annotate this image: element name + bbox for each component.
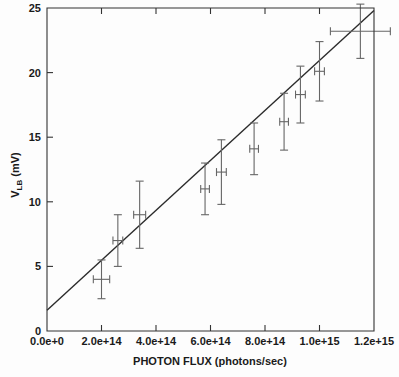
linear-fit-line	[47, 11, 374, 311]
data-point-errorbar	[134, 181, 146, 248]
y-tick-label: 5	[35, 260, 41, 272]
y-tick-label: 0	[35, 325, 41, 337]
photon-flux-voltage-scatter-plot: 0.0e+02.0e+144.0e+146.0e+148.0e+141.0e+1…	[0, 0, 399, 377]
y-tick-label: 20	[29, 67, 41, 79]
data-point-errorbar	[216, 140, 226, 205]
chart-figure: 0.0e+02.0e+144.0e+146.0e+148.0e+141.0e+1…	[0, 0, 399, 377]
x-tick-label: 1.2e+15	[354, 335, 394, 347]
fit-line-segment	[47, 11, 374, 311]
y-axis-tick-labels: 0510152025	[29, 2, 41, 337]
y-axis-title: VLB (mV)	[9, 152, 24, 198]
y-tick-label: 10	[29, 196, 41, 208]
x-tick-label: 4.0e+14	[136, 335, 177, 347]
x-tick-label: 8.0e+14	[245, 335, 286, 347]
y-axis-title-subscript: LB	[15, 180, 24, 191]
data-point-errorbar	[280, 93, 289, 150]
data-point-errorbar	[113, 215, 123, 267]
y-tick-label: 25	[29, 2, 41, 14]
data-points-with-error-bars	[93, 4, 390, 299]
data-point-errorbar	[315, 42, 325, 101]
data-point-errorbar	[330, 4, 390, 58]
x-axis-tick-labels: 0.0e+02.0e+144.0e+146.0e+148.0e+141.0e+1…	[30, 335, 394, 347]
x-tick-label: 1.0e+15	[299, 335, 339, 347]
x-tick-label: 2.0e+14	[81, 335, 122, 347]
y-tick-label: 15	[29, 131, 41, 143]
data-point-errorbar	[250, 123, 259, 175]
tick-marks	[47, 8, 320, 331]
data-point-errorbar	[201, 163, 210, 215]
x-axis-title: PHOTON FLUX (photons/sec)	[133, 355, 287, 367]
x-tick-label: 6.0e+14	[190, 335, 231, 347]
y-axis-title-group: VLB (mV)	[9, 152, 24, 198]
y-axis-title-units-text: (mV)	[9, 152, 21, 177]
